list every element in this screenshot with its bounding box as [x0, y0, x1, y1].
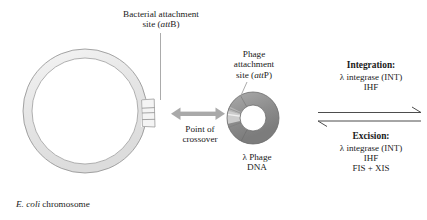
label-phage-attachment-site: Phage attachment site (attP) — [207, 49, 301, 80]
label-phage-dna: λ Phage DNA — [213, 152, 301, 173]
label-point-of-crossover: Point of crossover — [163, 124, 237, 145]
excision-factor-ihf: IHF — [316, 153, 426, 163]
reversible-reaction-arrows — [318, 107, 421, 127]
phage-dna-label-line2: DNA — [247, 162, 267, 172]
panel-integration: Integration: λ integrase (INT) IHF — [316, 60, 426, 92]
attB-label-italic: att — [161, 19, 171, 29]
panel-excision: Excision: λ integrase (INT) IHF FIS + XI… — [316, 131, 426, 173]
excision-heading: Excision: — [316, 131, 426, 142]
excision-factor-fis-xis: FIS + XIS — [316, 163, 426, 173]
attP-label-line3-suffix: P) — [264, 70, 272, 80]
forward-arrowhead — [412, 107, 421, 113]
figure-lambda-integration-excision: Bacterial attachment site (attB) Phage a… — [0, 0, 427, 220]
reverse-arrowhead — [318, 121, 327, 127]
crossover-arrow-shaft — [178, 112, 218, 116]
attB-label-line1: Bacterial attachment — [123, 9, 199, 19]
attP-label-italic: att — [254, 70, 264, 80]
excision-factor-integrase: λ integrase (INT) — [316, 143, 426, 153]
label-ecoli-chromosome: E. coli chromosome — [16, 199, 176, 209]
ecoli-species-italic: E. coli — [16, 199, 40, 209]
chromosome-inner-edge — [32, 58, 138, 164]
attP-label-line2: attachment — [234, 59, 274, 69]
bacterial-chromosome-ring — [23, 49, 147, 173]
attB-label-line2-suffix: B) — [170, 19, 179, 29]
ecoli-chromosome-rest: chromosome — [40, 199, 90, 209]
attP-label-line1: Phage — [243, 49, 265, 59]
crossover-label-line1: Point of — [185, 124, 214, 134]
crossover-label-line2: crossover — [182, 134, 217, 144]
label-bacterial-attachment-site: Bacterial attachment site (attB) — [96, 9, 226, 30]
attB-site-marker — [142, 99, 155, 127]
crossover-double-arrow — [171, 108, 225, 120]
crossover-arrowhead-right — [216, 108, 226, 120]
integration-heading: Integration: — [316, 60, 426, 71]
diagram-canvas — [0, 0, 427, 220]
crossover-arrowhead-left — [171, 108, 181, 120]
chromosome-ring-band — [28, 54, 143, 169]
integration-factor-ihf: IHF — [316, 82, 426, 92]
attP-label-line3-prefix: site ( — [236, 70, 254, 80]
attB-label-line2-prefix: site ( — [142, 19, 160, 29]
integration-factor-integrase: λ integrase (INT) — [316, 72, 426, 82]
phage-dna-label-line1: λ Phage — [242, 152, 271, 162]
